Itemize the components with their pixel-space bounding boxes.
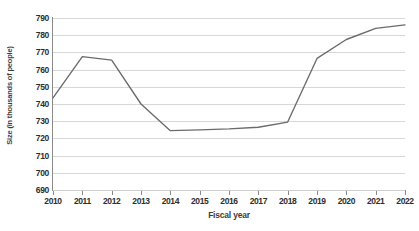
- x-axis-tick-labels: 2010201120122013201420152016201720182019…: [53, 196, 405, 210]
- x-axis-tick: [141, 191, 142, 195]
- y-axis-tick-labels: 690700710720730740750760770780790: [16, 0, 52, 190]
- y-axis-tick-label: 770: [36, 47, 49, 57]
- x-axis-tick-label: 2022: [396, 196, 413, 206]
- plot-area: [53, 18, 405, 190]
- x-axis-tick: [288, 191, 289, 195]
- x-axis-tick-label: 2012: [103, 196, 120, 206]
- y-axis-tick-label: 790: [36, 13, 49, 23]
- y-axis-tick-label: 750: [36, 82, 49, 92]
- y-axis-tick-label: 760: [36, 65, 49, 75]
- x-axis-tick: [346, 191, 347, 195]
- x-axis-tick-label: 2021: [367, 196, 384, 206]
- y-axis-tick-label: 710: [36, 151, 49, 161]
- x-axis-tick: [53, 191, 54, 195]
- x-axis-tick: [112, 191, 113, 195]
- series-layer: [53, 18, 405, 190]
- y-axis-tick-label: 730: [36, 116, 49, 126]
- x-axis-tick-label: 2020: [338, 196, 355, 206]
- x-axis-tick-label: 2018: [279, 196, 296, 206]
- y-axis-tick-label: 690: [36, 185, 49, 195]
- y-axis-tick-label: 700: [36, 168, 49, 178]
- x-axis-tick-label: 2016: [220, 196, 237, 206]
- y-axis-tick-label: 780: [36, 30, 49, 40]
- x-axis-tick-label: 2011: [74, 196, 91, 206]
- x-axis-tick-label: 2014: [162, 196, 179, 206]
- x-axis-tick-label: 2019: [308, 196, 325, 206]
- x-axis-tick-label: 2015: [191, 196, 208, 206]
- x-axis-tick: [258, 191, 259, 195]
- x-axis-tick: [317, 191, 318, 195]
- x-axis-tick-label: 2017: [250, 196, 267, 206]
- y-axis-tick-label: 740: [36, 99, 49, 109]
- x-axis-tick: [200, 191, 201, 195]
- y-axis-title-text: Size (in thousands of people): [5, 46, 14, 144]
- x-axis-tick: [170, 191, 171, 195]
- x-axis-tick: [229, 191, 230, 195]
- x-axis-tick: [405, 191, 406, 195]
- x-axis-tick-label: 2010: [44, 196, 61, 206]
- line-chart: Size (in thousands of people) 6907007107…: [0, 0, 419, 231]
- y-axis-tick-label: 720: [36, 133, 49, 143]
- x-axis-title: Fiscal year: [53, 210, 405, 220]
- x-axis-tick-label: 2013: [132, 196, 149, 206]
- x-axis-tick: [376, 191, 377, 195]
- series-line-size: [53, 25, 405, 131]
- x-axis-tick: [82, 191, 83, 195]
